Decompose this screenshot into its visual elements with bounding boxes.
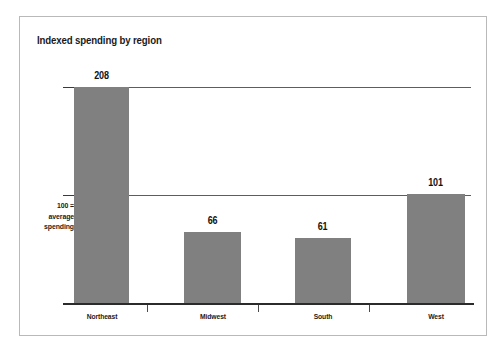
x-axis-label-south: South xyxy=(294,312,352,321)
chart-frame: Indexed spending by region 100 = average… xyxy=(19,16,487,336)
bar-value-west: 101 xyxy=(408,177,463,188)
bar-value-south: 61 xyxy=(295,221,350,232)
x-axis-tick-3 xyxy=(369,305,370,312)
gridline-tick-208 xyxy=(63,87,74,88)
bar-west[interactable] xyxy=(407,194,465,304)
bar-midwest[interactable] xyxy=(184,232,241,304)
bar-northeast[interactable] xyxy=(74,87,129,304)
x-axis-label-midwest: Midwest xyxy=(184,312,242,321)
gridline-tick-100 xyxy=(63,195,74,196)
x-axis-tick-1 xyxy=(147,305,148,312)
x-axis-baseline xyxy=(63,303,474,305)
x-axis-label-northeast: Northeast xyxy=(73,312,131,321)
x-axis-tick-2 xyxy=(258,305,259,312)
plot-area: 208 66 61 101 Northeast Midwest South We… xyxy=(20,17,488,337)
bar-south[interactable] xyxy=(295,238,351,304)
bar-value-midwest: 66 xyxy=(185,215,240,226)
x-axis-label-west: West xyxy=(407,312,465,321)
bar-value-northeast: 208 xyxy=(74,70,129,81)
gridline-208 xyxy=(74,87,471,88)
